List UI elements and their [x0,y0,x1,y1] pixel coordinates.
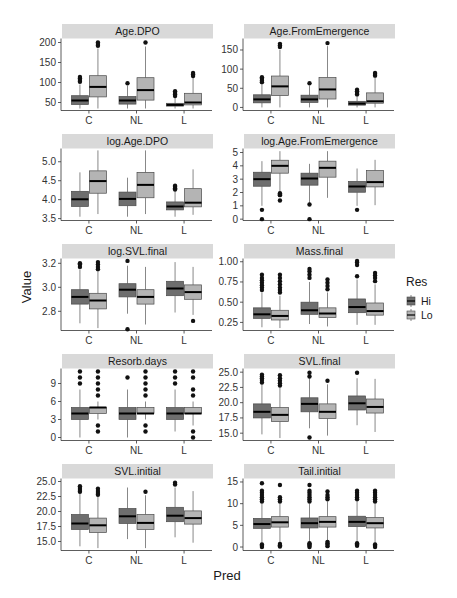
outlier-point [173,381,177,385]
x-tick-label: C [85,555,92,566]
boxplot-L-Lo [185,169,202,214]
facet-title: Tail.initial [298,465,341,477]
outlier-point [143,381,147,385]
outlier-point [307,371,311,375]
y-tick-label: 4.5 [42,175,56,186]
x-tick-label: NL [312,225,325,236]
facet-panel-log-svl-final: log.SVL.final2.83.03.2CNLL [42,244,213,346]
y-tick-label: 2 [232,187,238,198]
facet-title: SVL.final [298,355,340,367]
outlier-point [143,387,147,391]
outlier-point [373,542,377,546]
outlier-point [260,75,264,79]
x-tick-label: NL [130,115,143,126]
boxplot-NL-Hi [119,488,136,540]
outlier-point [373,488,377,492]
outlier-point [355,488,359,492]
boxplot-L-Lo [185,71,202,109]
boxplot-NL-Hi [301,267,318,324]
y-tick-label: 150 [221,44,238,55]
y-tick-label: 100 [39,77,56,88]
x-tick-label: L [181,115,187,126]
y-tick-label: 22.5 [37,491,57,502]
boxplot-C-Hi [253,75,270,107]
y-tick-label: 0 [232,102,238,113]
y-tick-label: 5 [232,147,238,158]
outlier-point [191,387,195,391]
outlier-point [373,271,377,275]
outlier-point [325,540,329,544]
x-tick-label: L [363,115,369,126]
y-tick-label: 4.0 [42,194,56,205]
boxplot-C-Hi [253,372,270,434]
boxplot-NL-Lo [137,369,154,433]
outlier-point [78,75,82,79]
faceted-boxplot-chart: Age.DPO50100150200CNLLAge.FromEmergence0… [0,0,457,598]
outlier-point [191,435,195,439]
x-tick-label: C [85,335,92,346]
outlier-point [355,208,359,212]
y-tick-label: 6 [50,396,56,407]
outlier-point [355,274,359,278]
y-tick-label: 5 [232,520,238,531]
y-tick-label: 0 [232,542,238,553]
x-tick-label: NL [312,335,325,346]
boxplot-L-Lo [367,160,384,205]
outlier-point [125,81,129,85]
boxplot-L-Lo [185,491,202,543]
boxplot-NL-Lo [319,41,336,108]
boxplot-NL-Hi [119,375,136,437]
boxplot-L-Lo [367,71,384,108]
x-tick-label: C [267,555,274,566]
boxplot-C-Lo [271,42,288,108]
y-tick-label: 3.0 [42,282,56,293]
outlier-point [143,369,147,373]
x-tick-label: C [85,225,92,236]
outlier-point [173,369,177,373]
boxplot-L-Hi [349,371,366,426]
outlier-point [307,267,311,271]
boxplot-NL-Hi [301,81,318,107]
legend-key-lo [407,309,415,321]
outlier-point [191,71,195,75]
y-tick-label: 1.00 [219,256,239,267]
boxplot-C-Lo [89,40,106,108]
facet-title: Mass.final [296,245,343,257]
boxplot-L-Hi [167,89,184,108]
outlier-point [260,542,264,546]
x-tick-label: L [181,555,187,566]
y-tick-label: 0 [232,214,238,225]
outlier-point [191,319,195,323]
x-tick-label: L [363,225,369,236]
boxplot-L-Hi [349,259,366,325]
outlier-point [278,272,282,276]
outlier-point [325,277,329,281]
outlier-point [325,41,329,45]
outlier-point [373,71,377,75]
outlier-point [173,89,177,93]
legend: ResHiLo [406,275,433,321]
y-tick-label: 200 [39,37,56,48]
outlier-point [307,202,311,206]
outlier-point [96,393,100,397]
boxplot-L-Hi [167,481,184,538]
boxplot-C-Lo [271,151,288,203]
y-tick-label: 0 [50,432,56,443]
outlier-point [325,489,329,493]
outlier-point [278,542,282,546]
y-tick-label: 3.5 [42,213,56,224]
y-tick-label: 50 [227,83,239,94]
outlier-point [78,375,82,379]
outlier-point [96,369,100,373]
chart-canvas: Age.DPO50100150200CNLLAge.FromEmergence0… [0,0,457,598]
outlier-point [78,381,82,385]
outlier-point [96,375,100,379]
x-tick-label: NL [312,445,325,456]
y-tick-label: 22.5 [219,382,239,393]
y-tick-label: 2.8 [42,306,56,317]
outlier-point [96,429,100,433]
x-tick-label: L [363,445,369,456]
outlier-point [307,488,311,492]
x-tick-label: L [181,225,187,236]
x-tick-label: C [267,445,274,456]
